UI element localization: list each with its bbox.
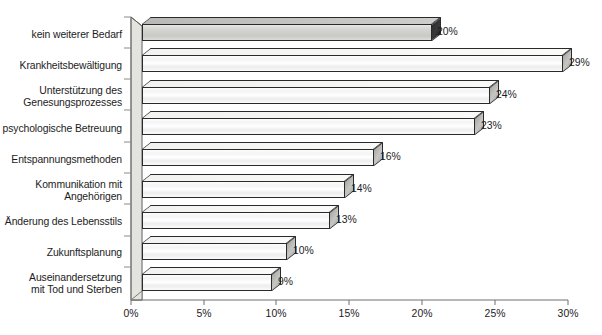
- bar-item[interactable]: [142, 149, 374, 166]
- value-axis-tick-label: 20%: [412, 308, 433, 320]
- bar-value-label: 14%: [351, 183, 372, 195]
- bar-front-face: [142, 149, 374, 166]
- bar-chart: kein weiterer Bedarf Krankheitsbewältigu…: [0, 0, 602, 335]
- value-axis-tick-label: 0%: [123, 308, 138, 320]
- bar-value-label: 23%: [481, 120, 502, 132]
- value-axis-tick-label: 15%: [339, 308, 360, 320]
- bar-value-label: 20%: [437, 26, 458, 38]
- bar-item[interactable]: [142, 24, 432, 41]
- bar-front-face: [142, 212, 330, 229]
- bar-item[interactable]: [142, 243, 287, 260]
- bar-item[interactable]: [142, 212, 330, 229]
- bar-top-face: [142, 142, 383, 149]
- bar-front-face: [142, 24, 432, 41]
- bar-top-face: [142, 111, 484, 118]
- bar-value-label: 10%: [293, 245, 314, 257]
- bar-item[interactable]: [142, 55, 563, 72]
- bar-top-face: [142, 205, 339, 212]
- bar-top-face: [142, 236, 296, 243]
- bar-top-face: [142, 17, 441, 24]
- bar-item[interactable]: [142, 118, 475, 135]
- bars-layer: 20% 29% 24% 23% 16%: [0, 0, 602, 335]
- bar-front-face: [142, 274, 272, 291]
- bar-item[interactable]: [142, 181, 345, 198]
- bar-top-face: [142, 267, 281, 274]
- value-axis-tick-label: 30%: [558, 308, 579, 320]
- bar-value-label: 24%: [496, 89, 517, 101]
- value-axis-tick-label: 10%: [266, 308, 287, 320]
- bar-front-face: [142, 55, 563, 72]
- bar-top-face: [142, 80, 499, 87]
- bar-value-label: 16%: [380, 151, 401, 163]
- bar-top-face: [142, 174, 354, 181]
- bar-value-label: 9%: [278, 276, 293, 288]
- bar-value-label: 29%: [569, 57, 590, 69]
- bar-front-face: [142, 87, 490, 104]
- bar-item[interactable]: [142, 87, 490, 104]
- bar-front-face: [142, 181, 345, 198]
- bar-item[interactable]: [142, 274, 272, 291]
- bar-front-face: [142, 118, 475, 135]
- bar-front-face: [142, 243, 287, 260]
- value-axis-tick-label: 5%: [196, 308, 211, 320]
- bar-top-face: [142, 48, 572, 55]
- bar-value-label: 13%: [336, 214, 357, 226]
- value-axis-tick-label: 25%: [485, 308, 506, 320]
